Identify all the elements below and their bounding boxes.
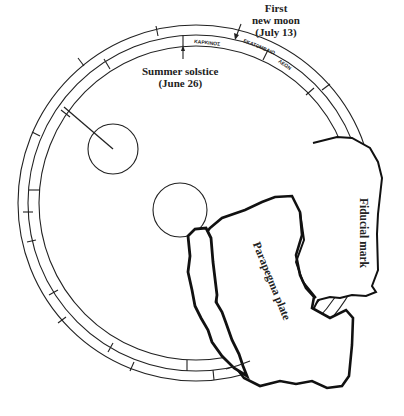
summer-solstice-line1: Summer solstice (142, 65, 218, 77)
first-new-moon-line2: new moon (252, 14, 300, 26)
inscription-hekatombaion: ΕΚΑΤΟΜΒΑΙΩ (243, 37, 277, 55)
first-new-moon-line3: (July 13) (252, 26, 300, 38)
first-new-moon-line1: First (252, 2, 300, 14)
inscription-leo: ΛΕΩΝ (277, 58, 292, 71)
summer-solstice-label: Summer solstice (June 26) (142, 65, 218, 89)
first-new-moon-label: First new moon (July 13) (252, 2, 300, 38)
fiducial-mark-label: Fiducial mark (358, 198, 370, 268)
summer-solstice-line2: (June 26) (142, 77, 218, 89)
inscription-karkinos: ΚΑΡΚΙΝΟΣ (194, 38, 221, 47)
dial-diagram: ΚΑΡΚΙΝΟΣ ΕΚΑΤΟΜΒΑΙΩ ΛΕΩΝ ΠΑΡΘΕΝΟΣ ΧΗΛΑΙ … (0, 0, 404, 416)
